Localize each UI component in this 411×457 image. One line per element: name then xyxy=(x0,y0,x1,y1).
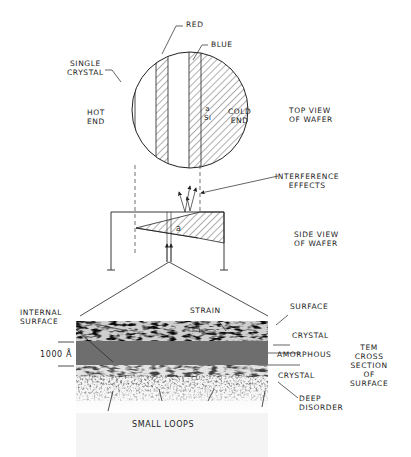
label-deep-disorder: DEEP DISORDER xyxy=(299,394,343,412)
label-cold-end: COLD END xyxy=(228,107,252,125)
caption-tem-cross-section: TEM CROSS SECTION OF SURFACE xyxy=(350,343,388,388)
label-amorphous: AMORPHOUS xyxy=(277,350,331,359)
label-crystal-top: CRYSTAL xyxy=(292,331,329,340)
label-strain: STRAIN xyxy=(190,306,221,315)
label-crystal-bottom: CRYSTAL xyxy=(278,371,315,380)
caption-side-view: SIDE VIEW OF WAFER xyxy=(294,230,339,248)
label-thickness: 1000 Å xyxy=(40,350,72,359)
label-single-crystal: SINGLE CRYSTAL xyxy=(67,59,104,77)
label-small-loops: SMALL LOOPS xyxy=(132,420,194,429)
interference-arrows xyxy=(179,176,278,212)
label-interference-effects: INTERFERENCE EFFECTS xyxy=(275,172,339,190)
label-alpha: a xyxy=(176,224,182,233)
tem-micrograph xyxy=(76,321,268,457)
label-hot-end: HOT END xyxy=(87,108,105,126)
label-blue: BLUE xyxy=(211,40,233,49)
label-alpha-si: a Si xyxy=(204,105,212,123)
label-red: RED xyxy=(186,20,204,29)
side-view-wafer xyxy=(80,212,268,316)
label-internal-surface: INTERNAL SURFACE xyxy=(20,308,62,326)
label-surface: SURFACE xyxy=(290,302,328,311)
caption-top-view: TOP VIEW OF WAFER xyxy=(289,106,333,124)
